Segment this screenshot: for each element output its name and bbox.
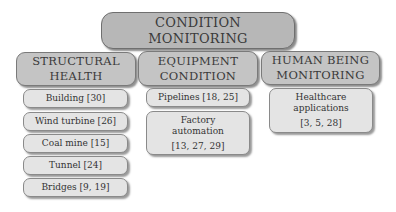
category-title-line2: CONDITION [160,69,236,84]
category-title-line1: STRUCTURAL [32,54,120,69]
leaf-label-line2: automation [172,126,224,137]
leaf-label-line1: Healthcare [296,92,347,103]
leaf-label: Building [30] [46,93,106,104]
category-human-being-monitoring: HUMAN BEING MONITORING [261,51,380,85]
leaf-label: Bridges [9, 19] [41,182,109,193]
category-title-line1: EQUIPMENT [158,54,238,69]
root-title-line2: MONITORING [148,31,248,47]
leaf-coal-mine: Coal mine [15] [23,134,128,153]
category-structural-health: STRUCTURAL HEALTH [16,52,136,86]
leaf-pipelines: Pipelines [18, 25] [146,88,250,107]
leaf-building: Building [30] [23,89,128,108]
leaf-healthcare-applications: Healthcare applications [3, 5, 28] [269,88,373,133]
category-title-line2: MONITORING [276,68,364,83]
leaf-label: Wind turbine [26] [35,116,116,127]
leaf-wind-turbine: Wind turbine [26] [23,112,128,131]
root-title-line1: CONDITION [155,15,241,31]
leaf-tunnel: Tunnel [24] [23,156,128,175]
category-title-line2: HEALTH [50,69,103,84]
leaf-factory-automation: Factory automation [13, 27, 29] [146,111,250,155]
leaf-refs: [3, 5, 28] [300,118,341,129]
root-node-condition-monitoring: CONDITION MONITORING [101,12,295,49]
leaf-label-line1: Factory [181,115,215,126]
leaf-bridges: Bridges [9, 19] [23,178,128,197]
leaf-refs: [13, 27, 29] [172,141,225,152]
leaf-label-line2: applications [293,103,348,114]
category-title-line1: HUMAN BEING [272,53,369,68]
category-equipment-condition: EQUIPMENT CONDITION [138,51,258,86]
leaf-label: Tunnel [24] [49,160,102,171]
leaf-label: Pipelines [18, 25] [158,92,238,103]
leaf-label: Coal mine [15] [42,138,109,149]
